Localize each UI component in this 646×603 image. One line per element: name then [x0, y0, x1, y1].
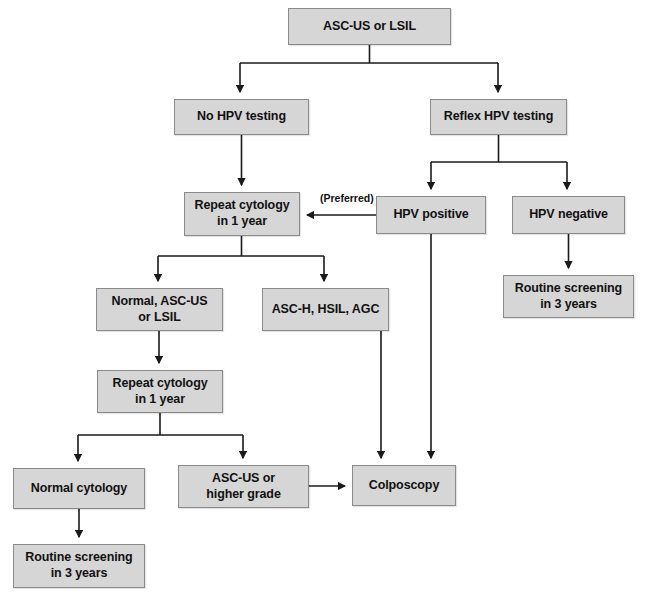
edge-label-preferred: (Preferred) [320, 192, 374, 204]
node-label: Normal, ASC-USor LSIL [101, 294, 218, 325]
node-normal-cytology[interactable]: Normal cytology [13, 468, 145, 509]
node-repeat-cytology-in-1-year-first[interactable]: Repeat cytologyin 1 year [184, 192, 300, 236]
node-routine-screening-in-3-years-left[interactable]: Routine screeningin 3 years [13, 544, 145, 588]
node-label: Normal cytology [18, 481, 140, 497]
node-normal-ascus-or-lsil[interactable]: Normal, ASC-USor LSIL [96, 288, 223, 331]
node-reflex-hpv-testing[interactable]: Reflex HPV testing [430, 99, 567, 135]
node-label: Colposcopy [357, 478, 451, 494]
flowchart-canvas: ASC-US or LSIL No HPV testing Reflex HPV… [0, 0, 646, 603]
node-hpv-positive[interactable]: HPV positive [376, 196, 486, 234]
node-label: ASC-US orhigher grade [183, 471, 304, 502]
node-label: Routine screeningin 3 years [18, 550, 140, 581]
node-label: HPV positive [381, 207, 481, 223]
node-label: Reflex HPV testing [435, 109, 562, 125]
node-no-hpv-testing[interactable]: No HPV testing [174, 99, 309, 135]
node-label: HPV negative [517, 207, 620, 223]
node-label: Repeat cytologyin 1 year [102, 376, 218, 407]
node-ascus-or-higher-grade[interactable]: ASC-US orhigher grade [178, 465, 309, 508]
node-colposcopy[interactable]: Colposcopy [352, 465, 456, 506]
node-label: No HPV testing [179, 109, 304, 125]
node-label: ASC-US or LSIL [293, 19, 446, 35]
node-hpv-negative[interactable]: HPV negative [512, 196, 625, 234]
node-routine-screening-in-3-years-right[interactable]: Routine screeningin 3 years [503, 275, 634, 318]
node-repeat-cytology-in-1-year-second[interactable]: Repeat cytologyin 1 year [97, 370, 223, 413]
node-label: Routine screeningin 3 years [508, 281, 629, 312]
node-asc-us-or-lsil[interactable]: ASC-US or LSIL [288, 8, 451, 45]
node-label: Repeat cytologyin 1 year [189, 198, 295, 229]
node-label: ASC-H, HSIL, AGC [267, 302, 384, 318]
node-asch-hsil-agc[interactable]: ASC-H, HSIL, AGC [262, 288, 389, 331]
